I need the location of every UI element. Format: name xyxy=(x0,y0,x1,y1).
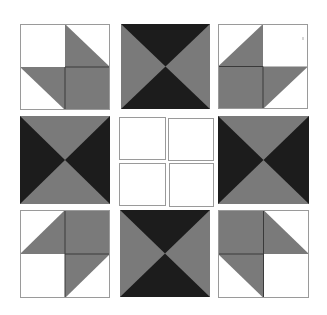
hourglass-block-top-center xyxy=(121,24,210,109)
center-square-bottom-right xyxy=(169,163,214,207)
hourglass-block-middle-left xyxy=(20,116,110,204)
corner-block-bottom-left-graphic xyxy=(20,210,110,298)
corner-block-top-left xyxy=(20,24,110,110)
corner-block-top-left-graphic xyxy=(20,24,110,110)
center-square-bottom-left xyxy=(119,163,166,206)
center-square-top-right xyxy=(168,118,214,161)
hourglass-block-bottom-center-graphic xyxy=(120,210,210,297)
center-square-top-left xyxy=(119,117,166,160)
hourglass-block-bottom-center xyxy=(120,210,210,297)
hourglass-block-middle-left-graphic xyxy=(20,116,110,204)
hourglass-block-top-center-graphic xyxy=(121,24,210,109)
corner-block-bottom-left xyxy=(20,210,110,298)
hourglass-block-middle-right-graphic xyxy=(218,116,309,204)
scan-speck xyxy=(302,37,304,40)
corner-block-bottom-right xyxy=(218,210,309,298)
corner-block-top-right-graphic xyxy=(218,24,308,109)
corner-block-bottom-right-graphic xyxy=(218,210,309,298)
corner-block-top-right xyxy=(218,24,308,109)
hourglass-block-middle-right xyxy=(218,116,309,204)
